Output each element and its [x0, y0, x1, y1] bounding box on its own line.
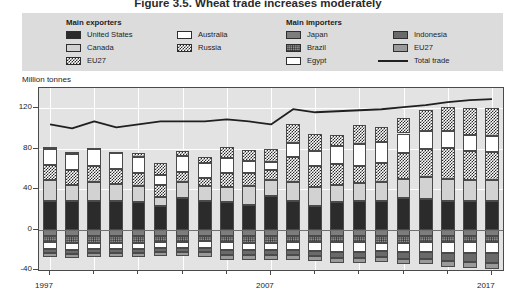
- gridline-horizontal: [39, 270, 503, 271]
- figure-title: Figure 3.5. Wheat trade increases modera…: [0, 0, 516, 11]
- total-trade-line: [39, 88, 503, 270]
- swatch-united-states-icon: [66, 31, 81, 39]
- swatch-eu27-exporter-icon: [66, 57, 81, 65]
- y-tick-label: 40: [6, 183, 32, 192]
- legend-item-japan[interactable]: Japan: [286, 30, 328, 39]
- legend-item-canada[interactable]: Canada: [66, 43, 114, 52]
- x-tick-mark-minor: [49, 271, 50, 274]
- legend-label-eu27-exporter: EU27: [87, 56, 106, 65]
- x-tick-label: 2007: [256, 281, 274, 290]
- swatch-russia-icon: [177, 44, 192, 52]
- y-tick-label: 80: [6, 143, 32, 152]
- legend-label-total-trade: Total trade: [414, 56, 449, 65]
- x-tick-mark-minor: [358, 271, 359, 274]
- swatch-eu27-importer-icon: [393, 44, 408, 52]
- legend-item-egypt[interactable]: Egypt: [286, 56, 326, 65]
- swatch-brazil-icon: [286, 44, 301, 52]
- legend-item-russia[interactable]: Russia: [177, 43, 221, 52]
- x-tick-mark-minor: [270, 271, 271, 274]
- legend-item-indonesia[interactable]: Indonesia: [393, 30, 447, 39]
- x-tick-mark-minor: [226, 271, 227, 274]
- swatch-total-trade-line-icon: [378, 60, 408, 62]
- legend-label-eu27-importer: EU27: [414, 43, 433, 52]
- swatch-egypt-icon: [286, 57, 301, 65]
- y-axis-title: Million tonnes: [22, 75, 71, 84]
- x-tick-mark-minor: [491, 271, 492, 274]
- figure-root: Figure 3.5. Wheat trade increases modera…: [0, 0, 516, 302]
- figure-title-text: Wheat trade increases moderately: [195, 0, 382, 9]
- legend-item-australia[interactable]: Australia: [177, 30, 228, 39]
- x-tick-mark-minor: [182, 271, 183, 274]
- legend-label-indonesia: Indonesia: [414, 30, 447, 39]
- swatch-japan-icon: [286, 31, 301, 39]
- x-tick-mark-minor: [403, 271, 404, 274]
- x-tick-mark-minor: [137, 271, 138, 274]
- x-tick-label: 2017: [477, 281, 495, 290]
- legend-label-brazil: Brazil: [307, 43, 326, 52]
- legend-label-canada: Canada: [87, 43, 114, 52]
- x-tick-mark-minor: [447, 271, 448, 274]
- legend-panel: Main exporters Main importers United Sta…: [22, 13, 503, 71]
- legend-heading-exporters: Main exporters: [66, 18, 121, 27]
- legend-label-japan: Japan: [307, 30, 328, 39]
- legend-label-united-states: United States: [87, 30, 133, 39]
- y-tick-label: 0: [6, 224, 32, 233]
- legend-item-united-states[interactable]: United States: [66, 30, 133, 39]
- legend-item-eu27-importer[interactable]: EU27: [393, 43, 433, 52]
- x-tick-mark-minor: [93, 271, 94, 274]
- legend-item-brazil[interactable]: Brazil: [286, 43, 326, 52]
- legend-item-total-trade[interactable]: Total trade: [378, 56, 449, 65]
- x-tick-mark-minor: [314, 271, 315, 274]
- swatch-canada-icon: [66, 44, 81, 52]
- plot-area: [38, 87, 504, 271]
- swatch-australia-icon: [177, 31, 192, 39]
- legend-label-russia: Russia: [198, 43, 221, 52]
- x-tick-label: 1997: [35, 281, 53, 290]
- y-tick-label: 120: [6, 102, 32, 111]
- swatch-indonesia-icon: [393, 31, 408, 39]
- legend-heading-importers: Main importers: [286, 18, 342, 27]
- legend-label-egypt: Egypt: [307, 56, 326, 65]
- legend-label-australia: Australia: [198, 30, 228, 39]
- legend-item-eu27-exporter[interactable]: EU27: [66, 56, 106, 65]
- figure-number: Figure 3.5.: [134, 0, 192, 9]
- y-tick-label: -40: [6, 264, 32, 273]
